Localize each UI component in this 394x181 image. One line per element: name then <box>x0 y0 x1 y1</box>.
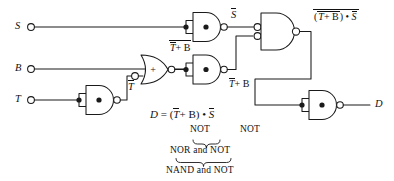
equation-equals: = <box>161 108 167 120</box>
circuit-diagram: + <box>0 0 394 181</box>
gate-nor-input-bubble <box>132 73 139 80</box>
equation: D = (T+ B) • S <box>150 108 214 121</box>
wire-label-t-bar: T <box>128 80 134 93</box>
junction-output-dot <box>299 102 304 107</box>
annotation-not-left: NOT <box>190 125 210 135</box>
equation-dot: • <box>202 108 206 120</box>
gate-combiner-bubble <box>292 28 299 35</box>
combiner-out-dot: ) • <box>340 11 352 22</box>
gate-nand-t-andglyph <box>96 97 101 102</box>
gate-nand-out-andglyph <box>319 102 324 107</box>
nor-out-outerbar: T+ B <box>169 40 191 54</box>
gate-combiner-input-bubble-top <box>254 24 261 31</box>
gate-combiner-input-bubble-bottom <box>254 33 261 40</box>
gate-nand-out-bubble <box>337 102 344 109</box>
terminal-t-icon <box>28 97 35 104</box>
gate-nand-t-bubble <box>114 97 121 104</box>
wire-label-tb: T+ B <box>229 78 249 90</box>
gate-nand-tb-andglyph <box>203 67 208 72</box>
annotation-nand-and-not: NAND and NOT <box>166 166 234 176</box>
tb-label-plusb: + B <box>235 78 250 89</box>
junction-t-dot <box>76 97 81 102</box>
equation-sbar: S <box>209 108 215 121</box>
input-label-t: T <box>15 94 21 105</box>
gate-nor-bubble <box>168 66 175 73</box>
equation-lhs: D <box>150 108 158 120</box>
output-label-d: D <box>375 99 383 110</box>
gate-nand-s-bubble <box>221 24 228 31</box>
t-bar-text: T <box>128 80 134 92</box>
s-bar-text: S <box>231 8 236 20</box>
annotation-not-right: NOT <box>240 125 260 135</box>
gate-nand-tb-bubble <box>221 66 228 73</box>
equation-plusb: + B <box>179 108 195 120</box>
annotation-nor-and-not: NOR and NOT <box>170 146 230 156</box>
junction-norout-dot <box>183 67 188 72</box>
gate-nand-s-andglyph <box>203 24 208 29</box>
gate-nor-orglyph: + <box>150 64 156 75</box>
wire-label-s-bar: S <box>231 8 236 21</box>
equation-close: ) <box>196 108 200 120</box>
terminal-s-icon <box>28 24 35 31</box>
input-label-b: B <box>15 63 21 74</box>
combiner-out-outerbar: (T+ B) • S <box>313 9 359 23</box>
combiner-out-plusb: + B <box>324 11 339 22</box>
combiner-out-innerbar: T+ B <box>317 11 339 22</box>
nor-out-plusb: + B <box>176 42 191 53</box>
terminal-b-icon <box>28 66 35 73</box>
gate-combiner-body <box>261 13 295 50</box>
combiner-out-sbar: S <box>352 11 357 23</box>
input-label-s: S <box>15 21 20 32</box>
wire-label-combiner-out: (T+ B) • S <box>313 9 359 23</box>
wire-tb-to-combiner <box>227 36 253 70</box>
junction-s-dot <box>183 24 188 29</box>
wire-label-nor-out: T+ B <box>169 40 191 54</box>
